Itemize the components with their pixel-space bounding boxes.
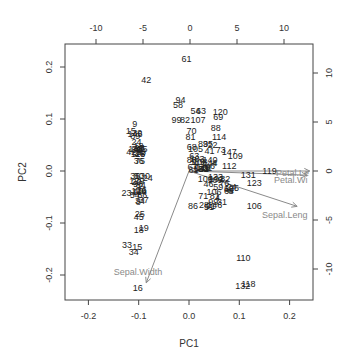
point-label: 16 [133,283,143,293]
y-tick-label: 0.2 [44,61,54,74]
point-label-cluster: 41 [205,146,215,156]
top-tick-label: -5 [139,23,147,33]
point-label-cluster: 71 [198,191,208,201]
x-tick-label: 0.0 [183,311,196,321]
point-label: 33 [122,240,132,250]
point-label: 86 [188,201,198,211]
point-label-cluster: 54 [130,190,140,200]
right-tick-label: 10 [324,68,334,78]
point-label: 106 [247,201,262,211]
x-tick-label: -0.1 [131,311,147,321]
top-tick-label: 10 [279,23,289,33]
point-label-cluster: 99 [208,197,218,207]
point-label-cluster: 68 [187,142,197,152]
loading-label: Petal.Wi [274,175,308,185]
x-tick-label: 0.1 [233,311,246,321]
point-label: 19 [139,223,149,233]
point-label-cluster: 46 [204,179,214,189]
point-label-cluster: 63 [189,151,199,161]
point-label-cluster: 60 [224,184,234,194]
point-label: 110 [236,253,250,263]
point-label: 109 [228,151,243,161]
point-label: 119 [262,166,276,176]
y-tick-label: 0.0 [44,165,54,178]
loading-label: Sepal.Leng [262,210,308,220]
point-label: 81 [186,132,196,142]
top-tick-label: -10 [89,23,102,33]
point-label: 58 [173,100,183,110]
biplot-chart: -0.2-0.10.00.10.2-0.2-0.10.00.10.2-10-50… [0,0,355,363]
point-label: 131 [241,170,256,180]
y-tick-label: 0.1 [44,113,54,126]
right-tick-label: -10 [324,262,334,275]
point-label: 15 [132,242,142,252]
point-label-cluster: 84 [136,180,146,190]
point-label-cluster: 53 [136,147,146,157]
right-tick-label: -5 [324,216,334,224]
top-tick-label: 0 [187,23,192,33]
point-label-cluster: 133 [193,164,208,174]
y-tick-label: -0.2 [44,267,54,283]
point-labels: 6142945854631206999821078870114817314710… [122,54,277,293]
point-label: 69 [213,112,223,122]
y-tick-label: -0.1 [44,215,54,231]
point-label: 112 [222,161,236,171]
point-label: 132 [235,281,250,291]
y-axis-label: PC2 [17,162,28,182]
point-label: 61 [181,54,191,64]
point-label: 42 [141,75,151,85]
point-label: 45 [134,212,144,222]
x-tick-label: 0.2 [283,311,296,321]
right-tick-label: 0 [324,168,334,173]
x-tick-label: -0.2 [81,311,97,321]
right-tick-label: 5 [324,119,334,124]
point-label: 107 [191,115,206,125]
point-label: 82 [180,115,190,125]
top-tick-label: 5 [234,23,239,33]
loading-label: Sepal.Width [114,267,163,277]
point-label-cluster: 146 [128,129,143,139]
x-axis-label: PC1 [179,338,199,349]
